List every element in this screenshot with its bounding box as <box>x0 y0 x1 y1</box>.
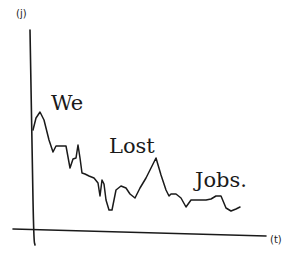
annotation-lost: Lost <box>109 134 155 158</box>
x-axis <box>13 229 266 236</box>
y-axis-label: (j) <box>16 8 27 19</box>
jobs-chart: (j) (t) We Lost Jobs. <box>0 0 294 262</box>
y-axis <box>30 30 35 245</box>
annotation-jobs: Jobs. <box>193 168 247 192</box>
annotation-we: We <box>51 91 83 115</box>
jobs-line <box>33 112 240 211</box>
x-axis-label: (t) <box>270 234 282 245</box>
